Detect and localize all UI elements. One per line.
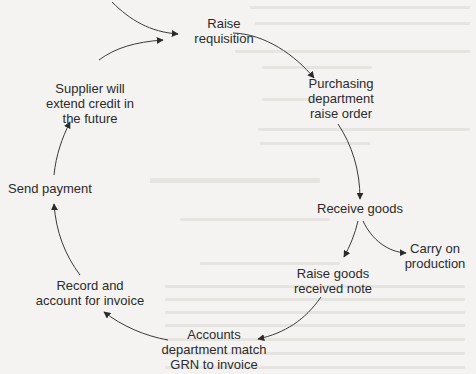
node-text: requisition: [194, 31, 253, 46]
arrow-purchasing-to-receive: [338, 124, 360, 199]
node-text: Carry on: [405, 241, 466, 256]
arrow-receive-to-grn: [344, 221, 358, 257]
node-text: extend credit in: [46, 96, 134, 111]
node-text: production: [405, 256, 466, 271]
node-send-payment: Send payment: [8, 181, 92, 196]
node-text: department match: [162, 342, 267, 357]
arrow-grn-to-accounts: [258, 297, 321, 339]
node-text: Raise goods: [294, 266, 372, 281]
node-raise-requisition: Raise requisition: [194, 16, 253, 46]
node-supplier-credit: Supplier will extend credit in the futur…: [46, 81, 134, 126]
arrow-receive-to-carry-on: [363, 221, 406, 253]
node-text: Record and: [36, 278, 144, 293]
node-text: the future: [46, 111, 134, 126]
node-text: received note: [294, 281, 372, 296]
node-text: department: [308, 91, 374, 106]
node-receive-goods: Receive goods: [317, 201, 403, 216]
node-text: GRN to invoice: [162, 357, 267, 372]
node-text: Accounts: [162, 327, 267, 342]
node-text: account for invoice: [36, 293, 144, 308]
node-raise-grn: Raise goods received note: [294, 266, 372, 296]
arrow-accounts-to-record: [104, 312, 168, 340]
arrow-record-to-send: [54, 204, 80, 275]
arrow-entry-to-raise-requisition: [112, 2, 178, 34]
arrow-supplier-to-raise: [99, 40, 163, 60]
node-accounts-match: Accounts department match GRN to invoice: [162, 327, 267, 372]
arrow-send-to-supplier: [54, 122, 70, 175]
node-carry-on-production: Carry on production: [405, 241, 466, 271]
node-text: Raise: [194, 16, 253, 31]
node-text: Purchasing: [308, 76, 374, 91]
node-text: Send payment: [8, 181, 92, 196]
node-text: raise order: [308, 106, 374, 121]
node-purchasing-order: Purchasing department raise order: [308, 76, 374, 121]
node-text: Receive goods: [317, 201, 403, 216]
node-record-invoice: Record and account for invoice: [36, 278, 144, 308]
node-text: Supplier will: [46, 81, 134, 96]
